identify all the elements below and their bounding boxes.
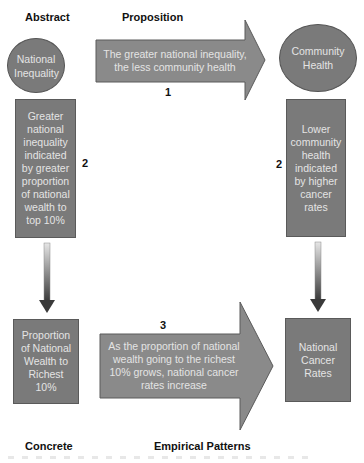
node-measure-left: Proportion of National Wealth to Richest… [13, 319, 79, 404]
label-proposition: Proposition [122, 11, 183, 23]
empirical-number: 3 [160, 319, 166, 331]
label-abstract: Abstract [25, 11, 70, 23]
node-indicator-right: Lower community health indicated by high… [286, 99, 346, 237]
node-measure-left-text: Proportion of National Wealth to Richest… [17, 329, 75, 394]
node-community-health-text: Community Health [291, 44, 345, 72]
operationalization-left-number: 2 [82, 157, 88, 169]
faded-caption-strip [8, 456, 308, 459]
node-measure-right: National Cancer Rates [285, 318, 351, 402]
node-indicator-left-text: Greater national inequality indicated by… [19, 110, 72, 227]
label-concrete: Concrete [25, 440, 73, 452]
right-down-arrow [310, 242, 326, 312]
empirical-text: As the proportion of national wealth goi… [104, 338, 244, 394]
node-measure-right-text: National Cancer Rates [292, 341, 344, 380]
node-indicator-right-text: Lower community health indicated by high… [290, 123, 342, 214]
proposition-number: 1 [165, 86, 171, 98]
node-national-inequality: National Inequality [7, 38, 65, 93]
node-national-inequality-text: National Inequality [14, 52, 58, 80]
label-empirical-patterns: Empirical Patterns [154, 440, 251, 452]
left-down-arrow [39, 243, 55, 313]
node-community-health: Community Health [279, 24, 357, 92]
operationalization-right-number: 2 [276, 158, 282, 170]
proposition-text: The greater national inequality, the les… [100, 44, 250, 78]
node-indicator-left: Greater national inequality indicated by… [15, 99, 76, 238]
